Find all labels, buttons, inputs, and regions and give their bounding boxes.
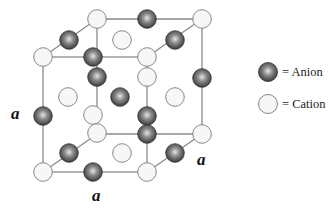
anion-sphere-icon [138, 107, 157, 126]
anion-sphere-icon [166, 144, 185, 163]
cation-sphere-icon [34, 48, 53, 67]
cation-sphere-icon [138, 68, 157, 87]
anion-sphere-icon [257, 61, 279, 83]
anion-sphere-icon [60, 31, 79, 50]
anion-sphere-icon [111, 88, 130, 107]
cation-sphere-icon [193, 10, 212, 29]
legend-cation-label: = Cation [282, 97, 326, 112]
rock-salt-unit-cell-diagram [0, 0, 240, 213]
anion-sphere-icon [138, 125, 157, 144]
anion-sphere-icon [166, 31, 185, 50]
anion-sphere-icon [138, 10, 157, 29]
anion-sphere-icon [60, 144, 79, 163]
legend-cation: = Cation [257, 93, 326, 115]
legend-anion-label: = Anion [282, 65, 323, 80]
anion-sphere-icon [88, 68, 107, 87]
cation-sphere-icon [59, 88, 78, 107]
anion-sphere-icon [193, 69, 212, 88]
edge-label-left: a [11, 104, 20, 124]
cation-sphere-icon [113, 31, 132, 50]
atoms-layer [34, 10, 212, 182]
legend-anion: = Anion [257, 61, 323, 83]
cation-sphere-icon [166, 88, 185, 107]
cation-sphere-icon [88, 10, 107, 29]
anion-sphere-icon [84, 163, 103, 182]
edge-label-bottom: a [92, 186, 101, 206]
anion-sphere-icon [84, 48, 103, 67]
cation-sphere-icon [193, 125, 212, 144]
cation-sphere-icon [84, 106, 103, 125]
edge-label-right: a [197, 150, 206, 170]
cation-sphere-icon [138, 163, 157, 182]
cation-sphere-icon [138, 48, 157, 67]
cation-sphere-icon [88, 124, 107, 143]
anion-sphere-icon [34, 107, 53, 126]
cation-sphere-icon [113, 144, 132, 163]
cation-sphere-icon [257, 93, 279, 115]
cation-sphere-icon [34, 163, 53, 182]
